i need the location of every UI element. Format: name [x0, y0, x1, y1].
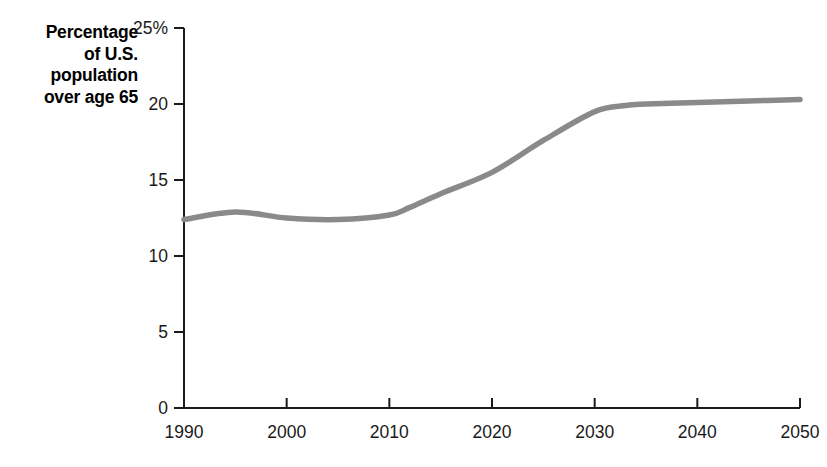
y-axis-ticks: 0510152025%	[133, 18, 184, 418]
chart-series-group	[184, 99, 800, 219]
x-tick-label: 2040	[678, 422, 717, 442]
x-tick-label: 2010	[370, 422, 409, 442]
x-tick-label: 2000	[267, 422, 306, 442]
y-tick-label: 25%	[133, 18, 168, 38]
x-tick-label: 2020	[473, 422, 512, 442]
chart-figure: Percentage of U.S. population over age 6…	[0, 0, 827, 467]
y-tick-label: 20	[149, 94, 169, 114]
line-chart-plot: 0510152025% 1990200020102020203020402050	[0, 0, 827, 467]
y-tick-label: 10	[149, 246, 169, 266]
y-tick-label: 0	[158, 398, 168, 418]
y-tick-label: 15	[149, 170, 168, 190]
x-axis-ticks: 1990200020102020203020402050	[165, 398, 820, 442]
chart-series-line	[184, 99, 800, 219]
x-tick-label: 1990	[165, 422, 204, 442]
x-tick-label: 2030	[575, 422, 614, 442]
x-tick-label: 2050	[781, 422, 820, 442]
y-tick-label: 5	[158, 322, 168, 342]
